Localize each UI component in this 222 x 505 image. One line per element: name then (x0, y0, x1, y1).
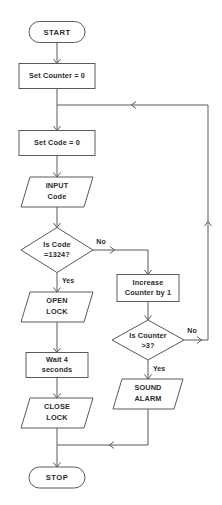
wait-label-line2: seconds (42, 365, 73, 374)
increase-counter-label-line2: Counter by 1 (125, 288, 171, 297)
node-is-code-decision[interactable]: Is Code =1324? (21, 228, 93, 273)
is-code-label-line2: =1324? (44, 250, 70, 259)
branch-label-is-code-yes: Yes (62, 277, 74, 284)
wait-label-line1: Wait 4 (46, 355, 69, 364)
edge-is-code-no-to-increase-counter (93, 250, 148, 275)
start-label: START (43, 28, 70, 37)
node-start[interactable]: START (29, 22, 85, 43)
sound-alarm-label-line2: ALARM (134, 394, 161, 403)
sound-alarm-label-line1: SOUND (134, 383, 161, 392)
increase-counter-label-line1: Increase (133, 278, 164, 287)
close-lock-label-line2: LOCK (46, 413, 68, 422)
is-counter-label-line1: Is Counter (129, 331, 167, 340)
open-lock-label-line2: LOCK (46, 307, 68, 316)
is-counter-label-line2: >3? (141, 341, 155, 350)
node-stop[interactable]: STOP (29, 467, 85, 488)
is-code-label-line1: Is Code (43, 240, 70, 249)
node-increase-counter[interactable]: Increase Counter by 1 (117, 275, 179, 302)
open-lock-label-line1: OPEN (46, 296, 67, 305)
set-code-label: Set Code = 0 (34, 138, 80, 147)
branch-label-is-code-no: No (96, 238, 105, 245)
node-wait[interactable]: Wait 4 seconds (26, 353, 88, 378)
input-code-label-line2: Code (48, 192, 67, 201)
branch-label-is-counter-no: No (187, 327, 196, 334)
node-open-lock[interactable]: OPEN LOCK (21, 292, 93, 322)
node-set-code[interactable]: Set Code = 0 (19, 131, 95, 156)
flowchart-canvas: START Set Counter = 0 Set Code = 0 INPUT… (0, 0, 222, 505)
input-code-label-line1: INPUT (46, 181, 69, 190)
close-lock-label-line1: CLOSE (44, 402, 70, 411)
node-set-counter[interactable]: Set Counter = 0 (19, 64, 95, 89)
node-close-lock[interactable]: CLOSE LOCK (21, 398, 93, 428)
stop-label: STOP (46, 473, 69, 482)
set-counter-label: Set Counter = 0 (29, 71, 85, 80)
node-input-code[interactable]: INPUT Code (21, 177, 93, 207)
node-is-counter-decision[interactable]: Is Counter >3? (112, 320, 184, 360)
branch-label-is-counter-yes: Yes (153, 365, 165, 372)
flowchart-diagram: START Set Counter = 0 Set Code = 0 INPUT… (0, 0, 222, 505)
node-sound-alarm[interactable]: SOUND ALARM (113, 379, 183, 409)
